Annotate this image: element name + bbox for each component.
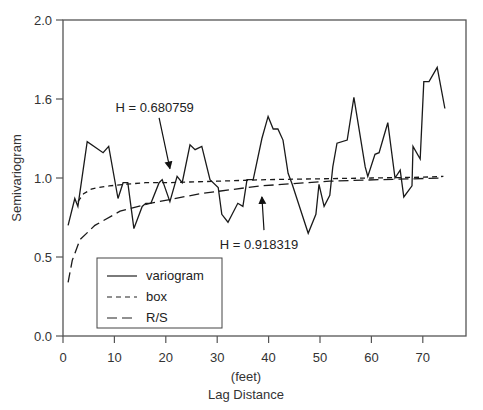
x-tick-label: 10 bbox=[107, 350, 121, 365]
x-tick-label: 30 bbox=[210, 350, 224, 365]
x-tick-label: 50 bbox=[313, 350, 327, 365]
series-box bbox=[78, 176, 444, 201]
legend-label-box: box bbox=[146, 289, 167, 304]
x-axis: 010203040506070 bbox=[59, 336, 430, 365]
x-tick-label: 20 bbox=[159, 350, 173, 365]
annotation-label: H = 0.918319 bbox=[220, 237, 298, 252]
series-variogram bbox=[68, 67, 445, 233]
x-axis-title: Lag Distance bbox=[208, 387, 284, 402]
semivariogram-chart: 0.00.51.01.62.0 010203040506070 Semivari… bbox=[0, 0, 483, 410]
annotation-arrow bbox=[262, 197, 264, 230]
y-tick-label: 0.0 bbox=[34, 329, 52, 344]
y-tick-label: 1.0 bbox=[34, 171, 52, 186]
legend-label-rs: R/S bbox=[146, 310, 168, 325]
x-tick-label: 0 bbox=[59, 350, 66, 365]
x-tick-label: 70 bbox=[416, 350, 430, 365]
x-tick-label: 60 bbox=[364, 350, 378, 365]
y-tick-label: 2.0 bbox=[34, 13, 52, 28]
x-tick-label: 40 bbox=[261, 350, 275, 365]
legend-label-variogram: variogram bbox=[146, 268, 204, 283]
y-axis: 0.00.51.01.62.0 bbox=[34, 13, 63, 344]
legend: variogram box R/S bbox=[97, 258, 222, 328]
x-axis-unit: (feet) bbox=[231, 369, 261, 384]
annotation-arrow bbox=[159, 118, 170, 169]
y-tick-label: 0.5 bbox=[34, 250, 52, 265]
y-axis-title: Semivariogram bbox=[9, 134, 24, 221]
y-tick-label: 1.6 bbox=[34, 92, 52, 107]
annotation-label: H = 0.680759 bbox=[115, 100, 193, 115]
